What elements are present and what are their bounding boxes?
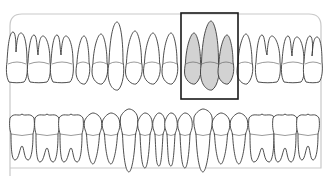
lower-tooth-15[interactable] bbox=[273, 114, 298, 162]
lower-tooth-1[interactable] bbox=[10, 114, 35, 160]
upper-teeth-row bbox=[6, 21, 322, 90]
lower-tooth-5[interactable] bbox=[102, 113, 120, 164]
lower-tooth-11[interactable] bbox=[194, 109, 213, 172]
upper-tooth-2[interactable] bbox=[27, 35, 50, 83]
upper-tooth-1[interactable] bbox=[6, 32, 27, 83]
lower-tooth-10[interactable] bbox=[178, 113, 193, 168]
upper-tooth-10-selected[interactable] bbox=[185, 33, 202, 84]
lower-tooth-7[interactable] bbox=[138, 113, 153, 168]
lower-tooth-16[interactable] bbox=[297, 114, 320, 160]
lower-tooth-3[interactable] bbox=[59, 114, 84, 162]
upper-tooth-15[interactable] bbox=[281, 36, 304, 83]
upper-tooth-14[interactable] bbox=[255, 35, 280, 83]
lower-tooth-4[interactable] bbox=[84, 113, 102, 164]
upper-tooth-13[interactable] bbox=[237, 34, 253, 84]
upper-tooth-4[interactable] bbox=[76, 36, 90, 84]
upper-tooth-6[interactable] bbox=[108, 22, 124, 90]
upper-tooth-8[interactable] bbox=[144, 33, 161, 84]
dental-chart bbox=[0, 0, 329, 180]
lower-tooth-8[interactable] bbox=[153, 113, 166, 166]
lower-tooth-14[interactable] bbox=[249, 114, 276, 162]
lower-tooth-12[interactable] bbox=[212, 113, 230, 164]
lower-tooth-2[interactable] bbox=[35, 114, 60, 162]
upper-tooth-11-selected[interactable] bbox=[201, 21, 220, 90]
upper-tooth-5[interactable] bbox=[92, 34, 108, 84]
lower-tooth-6[interactable] bbox=[120, 109, 138, 172]
upper-tooth-16[interactable] bbox=[303, 36, 322, 83]
upper-tooth-3[interactable] bbox=[50, 35, 73, 83]
lower-teeth-row bbox=[10, 109, 320, 172]
upper-tooth-9[interactable] bbox=[162, 33, 178, 84]
lower-tooth-9[interactable] bbox=[165, 113, 178, 166]
upper-tooth-7[interactable] bbox=[126, 31, 143, 84]
lower-tooth-13[interactable] bbox=[230, 113, 248, 164]
upper-tooth-12-selected[interactable] bbox=[218, 35, 234, 84]
